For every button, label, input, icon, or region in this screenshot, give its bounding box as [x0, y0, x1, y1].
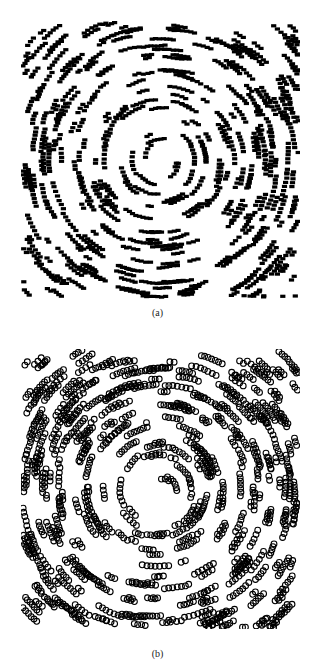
data-point: [59, 147, 64, 150]
data-point: [25, 110, 30, 113]
data-point: [246, 220, 251, 223]
data-point: [178, 290, 183, 293]
data-point: [291, 226, 296, 229]
data-point: [251, 507, 257, 513]
data-point: [263, 450, 269, 456]
data-point: [257, 60, 262, 63]
data-point: [34, 50, 39, 53]
data-point: [57, 24, 62, 27]
data-point: [273, 178, 278, 181]
data-point: [68, 67, 73, 70]
data-point: [21, 170, 25, 173]
data-point: [141, 73, 146, 76]
data-point: [229, 200, 234, 203]
data-point: [106, 134, 111, 137]
data-point: [269, 155, 274, 158]
data-point: [230, 60, 235, 63]
data-point: [215, 174, 220, 177]
data-point: [148, 241, 153, 244]
data-point: [46, 241, 51, 244]
data-point: [65, 263, 70, 266]
data-point: [32, 197, 37, 200]
data-point: [293, 88, 298, 91]
data-point: [42, 172, 47, 175]
data-point: [68, 259, 73, 262]
data-point: [263, 149, 268, 152]
data-point: [160, 248, 165, 251]
data-point: [214, 185, 219, 188]
data-point: [266, 120, 271, 123]
data-point: [25, 69, 30, 72]
data-point: [282, 97, 287, 100]
data-point: [199, 179, 204, 182]
data-point: [101, 162, 106, 165]
data-point: [23, 185, 28, 188]
data-point: [77, 69, 82, 72]
data-point: [54, 117, 59, 120]
data-point: [173, 165, 178, 168]
data-point: [226, 212, 231, 215]
data-point: [59, 156, 64, 159]
data-point: [131, 621, 137, 627]
data-point: [53, 190, 58, 193]
data-point: [85, 237, 90, 240]
data-point: [145, 595, 151, 601]
data-point: [269, 159, 274, 162]
data-point: [95, 90, 100, 93]
data-point: [111, 120, 116, 123]
data-point: [27, 248, 32, 251]
data-point: [44, 78, 49, 81]
data-point: [237, 110, 242, 113]
data-point: [258, 133, 263, 136]
data-point: [274, 218, 279, 221]
data-point: [73, 229, 78, 232]
data-point: [247, 179, 252, 182]
data-point: [25, 214, 30, 217]
data-point: [290, 112, 295, 115]
data-point: [232, 153, 237, 156]
data-point: [175, 94, 180, 97]
data-point: [280, 295, 285, 298]
data-point: [70, 126, 75, 129]
data-point: [247, 74, 252, 77]
data-point: [39, 160, 44, 163]
data-point: [160, 620, 166, 626]
data-point: [255, 113, 260, 116]
data-point: [104, 120, 109, 123]
data-point: [283, 181, 288, 184]
data-point: [119, 166, 124, 169]
data-point: [35, 90, 40, 93]
data-point: [162, 201, 167, 204]
data-point: [107, 132, 112, 135]
data-point: [139, 280, 144, 283]
data-point: [30, 122, 35, 125]
data-point: [230, 242, 235, 245]
data-point: [286, 251, 291, 254]
data-point: [286, 150, 291, 153]
data-point: [176, 521, 182, 527]
data-point: [191, 240, 196, 243]
data-point: [139, 230, 144, 233]
data-point: [148, 133, 153, 136]
data-point: [217, 166, 222, 169]
data-point: [26, 168, 31, 171]
data-point: [68, 60, 73, 63]
data-point: [39, 183, 44, 186]
data-point: [75, 91, 80, 94]
data-point: [31, 141, 36, 144]
data-point: [141, 454, 147, 460]
data-point: [104, 81, 109, 84]
data-point: [289, 130, 294, 133]
data-point: [216, 123, 221, 126]
data-point: [21, 280, 26, 283]
data-point: [146, 238, 151, 241]
data-point: [43, 268, 48, 271]
data-point: [36, 252, 41, 255]
data-point: [32, 114, 37, 117]
data-point: [47, 167, 52, 170]
data-point: [256, 90, 261, 93]
data-point: [196, 135, 201, 138]
data-point: [122, 174, 127, 177]
data-point: [264, 117, 269, 120]
data-point: [267, 124, 272, 127]
